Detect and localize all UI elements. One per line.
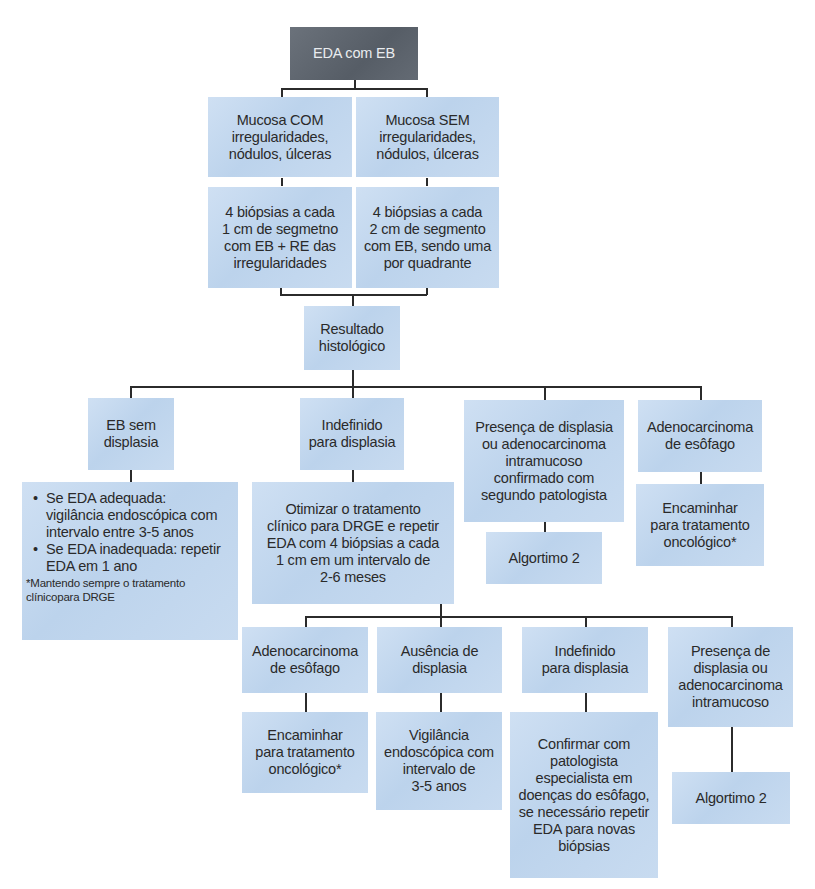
node-label: Mucosa SEM irregularidades, nódulos, úlc… <box>376 112 478 163</box>
connector <box>544 386 546 400</box>
node-vigilancia-3-5-anos: Vigilância endoscópica com intervalo de … <box>376 712 502 810</box>
connector <box>352 470 354 482</box>
connector <box>700 472 702 484</box>
connector <box>281 178 283 186</box>
node-algoritmo-2: Algortimo 2 <box>486 532 602 584</box>
bullet-block: Se EDA adequada: vigilância endoscópica … <box>30 490 221 604</box>
connector <box>440 693 442 712</box>
connector <box>352 294 354 306</box>
node-algoritmo-2-b: Algortimo 2 <box>672 772 790 824</box>
connector <box>352 370 354 386</box>
connector <box>281 88 283 97</box>
node-label: Indefinido para displasia <box>542 643 629 677</box>
node-presenca-displasia-intramucoso: Presença de displasia ou adenocarcinoma … <box>668 627 793 727</box>
footnote: *Mantendo sempre o tratamento clínicopar… <box>26 576 221 604</box>
node-biopsias-1cm: 4 biópsias a cada 1 cm de segmetno com E… <box>208 187 352 288</box>
connector <box>305 616 732 618</box>
node-label: Adenocarcinoma de esôfago <box>252 643 358 677</box>
node-label: Presença de displasia ou adenocarcinoma … <box>475 419 613 504</box>
connector <box>130 386 701 388</box>
node-label: 4 biópsias a cada 2 cm de segmento com E… <box>364 204 491 272</box>
connector <box>426 88 428 97</box>
connector <box>305 616 307 627</box>
connector <box>585 693 587 712</box>
node-label: Algortimo 2 <box>508 550 579 567</box>
connector <box>731 616 733 627</box>
node-label: Presença de displasia ou adenocarcinoma … <box>678 643 782 711</box>
node-label: Adenocarcinoma de esôfago <box>647 419 753 453</box>
node-label: Vigilância endoscópica com intervalo de … <box>384 727 494 795</box>
node-indefinido-para-displasia-2: Indefinido para displasia <box>522 627 648 693</box>
node-label: EB sem displasia <box>104 417 159 451</box>
connector <box>544 522 546 532</box>
node-vigilancia-bullets: Se EDA adequada: vigilância endoscópica … <box>22 482 238 640</box>
node-encaminhar-oncologico: Encaminhar para tratamento oncológico* <box>636 484 764 566</box>
node-label: Ausência de displasia <box>401 643 479 677</box>
node-label: 4 biópsias a cada 1 cm de segmetno com E… <box>222 204 338 272</box>
node-label: Resultado histológico <box>319 321 385 355</box>
node-encaminhar-oncologico-2: Encaminhar para tratamento oncológico* <box>242 712 368 793</box>
node-confirmar-patologista: Confirmar com patologista especialista e… <box>510 712 658 878</box>
connector <box>130 470 132 482</box>
connector <box>305 693 307 712</box>
node-biopsias-2cm: 4 biópsias a cada 2 cm de segmento com E… <box>356 187 499 288</box>
node-label: Algortimo 2 <box>695 790 766 807</box>
connector <box>352 386 354 398</box>
node-label: Otimizar o tratamento clínico para DRGE … <box>267 501 439 586</box>
node-label: Confirmar com patologista especialista e… <box>519 736 650 855</box>
node-otimizar-tratamento: Otimizar o tratamento clínico para DRGE … <box>252 482 454 604</box>
node-mucosa-sem-irregularidades: Mucosa SEM irregularidades, nódulos, úlc… <box>356 97 499 177</box>
connector <box>731 727 733 772</box>
root-node-eda-com-eb: EDA com EB <box>290 27 418 80</box>
node-label: Encaminhar para tratamento oncológico* <box>255 727 354 778</box>
node-indefinido-para-displasia: Indefinido para displasia <box>300 398 404 470</box>
node-ausencia-displasia: Ausência de displasia <box>377 627 502 693</box>
connector <box>281 88 427 90</box>
connector <box>130 386 132 398</box>
root-node-label: EDA com EB <box>313 45 395 62</box>
connector <box>700 386 702 400</box>
node-label: Indefinido para displasia <box>309 417 396 451</box>
node-eb-sem-displasia: EB sem displasia <box>88 398 174 470</box>
node-adenocarcinoma-esofago-2: Adenocarcinoma de esôfago <box>242 627 368 693</box>
bullet-item: Se EDA adequada: vigilância endoscópica … <box>46 490 221 541</box>
node-label: Encaminhar para tratamento oncológico* <box>650 500 749 551</box>
connector <box>585 616 587 627</box>
node-adenocarcinoma-esofago: Adenocarcinoma de esôfago <box>638 400 762 472</box>
node-label: Mucosa COM irregularidades, nódulos, úlc… <box>229 112 331 163</box>
bullet-item: Se EDA inadequada: repetir EDA em 1 ano <box>46 541 221 575</box>
node-presenca-displasia-confirmado: Presença de displasia ou adenocarcinoma … <box>464 400 624 522</box>
connector <box>440 616 442 627</box>
bullet-list: Se EDA adequada: vigilância endoscópica … <box>30 490 221 575</box>
connector <box>280 294 427 296</box>
connector <box>426 178 428 186</box>
node-resultado-histologico: Resultado histológico <box>304 306 400 370</box>
node-mucosa-com-irregularidades: Mucosa COM irregularidades, nódulos, úlc… <box>208 97 352 177</box>
